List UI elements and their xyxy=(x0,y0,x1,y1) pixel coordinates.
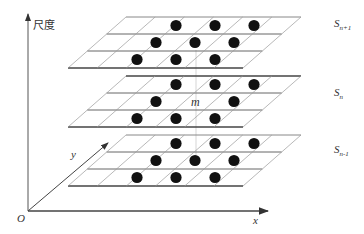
grid-column-line xyxy=(214,135,272,186)
origin-label: O xyxy=(17,212,25,224)
sample-point-dot xyxy=(209,172,220,183)
grid-column-line xyxy=(214,17,272,68)
sample-point-dot xyxy=(228,96,239,107)
grid-column-line xyxy=(97,17,155,68)
sample-point-dot xyxy=(150,155,161,166)
sample-point-dot xyxy=(131,113,142,124)
layer-label-bottom-sub: n-1 xyxy=(340,150,349,158)
layer-label-top: Sn+1 xyxy=(334,17,351,32)
sample-point-dot xyxy=(209,113,220,124)
layer-label-bottom: Sn-1 xyxy=(334,143,349,158)
x-axis-label: x xyxy=(253,214,258,226)
sample-point-dot xyxy=(131,172,142,183)
layer-label-middle: Sn xyxy=(334,86,343,101)
layer-label-top-sub: n+1 xyxy=(340,24,352,32)
sample-point-dot xyxy=(189,37,200,48)
scale-space-diagram xyxy=(0,0,364,234)
sample-point-dot xyxy=(170,138,181,149)
grid-layer-top xyxy=(68,17,301,68)
sample-point-dot xyxy=(150,37,161,48)
sample-point-dot xyxy=(209,54,220,65)
y-axis-label: y xyxy=(71,148,76,160)
y-axis xyxy=(28,143,108,211)
sample-point-dot xyxy=(209,138,220,149)
sample-point-dot xyxy=(131,54,142,65)
grid-column-line xyxy=(68,17,126,68)
grid-column-line xyxy=(68,76,126,127)
sample-point-dot xyxy=(228,155,239,166)
sample-point-dot xyxy=(248,138,259,149)
sample-point-dot xyxy=(209,20,220,31)
grid-column-line xyxy=(97,76,155,127)
sample-point-dot xyxy=(228,37,239,48)
sample-point-dot xyxy=(170,172,181,183)
grid-column-line xyxy=(97,135,155,186)
grid-column-line xyxy=(156,135,214,186)
sample-point-dot xyxy=(189,155,200,166)
layer-label-middle-sub: n xyxy=(340,93,344,101)
grid-column-line xyxy=(214,76,272,127)
sample-point-dot xyxy=(248,20,259,31)
sample-point-dot xyxy=(209,79,220,90)
sample-point-dot xyxy=(170,79,181,90)
sample-point-dot xyxy=(170,20,181,31)
scale-axis-label: 尺度 xyxy=(33,16,55,32)
sample-point-dot xyxy=(170,54,181,65)
sample-point-dot xyxy=(170,113,181,124)
sample-point-dot xyxy=(248,79,259,90)
center-point-label: m xyxy=(191,95,200,110)
grid-column-line xyxy=(156,76,214,127)
sample-point-dot xyxy=(150,96,161,107)
grid-layer-middle xyxy=(68,76,301,127)
grid-column-line xyxy=(156,17,214,68)
grid-layer-bottom xyxy=(68,135,301,186)
grid-column-line xyxy=(68,135,126,186)
